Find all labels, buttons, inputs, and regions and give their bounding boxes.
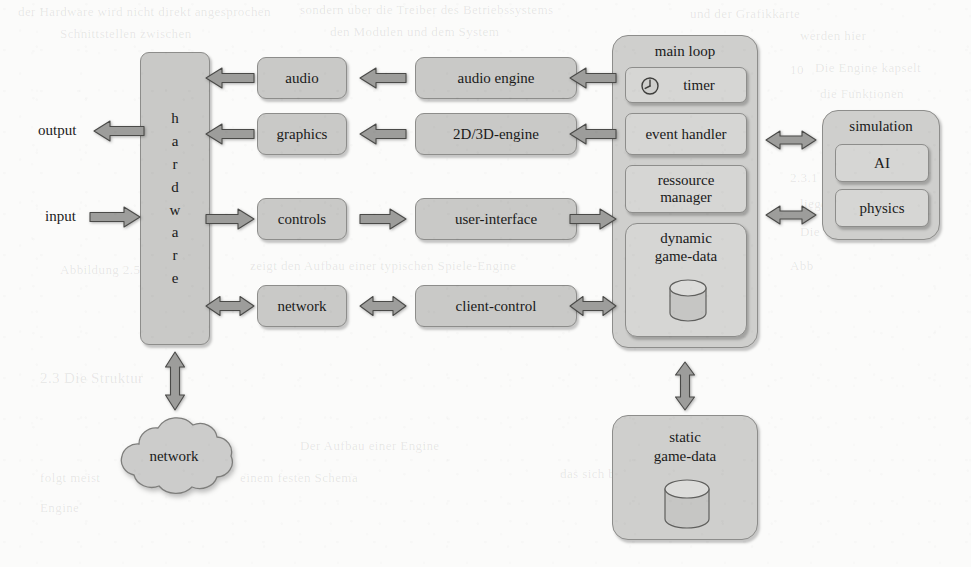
ghost-text-line: folgt meist — [40, 470, 100, 486]
hardware-node[interactable]: h a r d w a r e — [140, 52, 210, 345]
hardware-letter: e — [172, 267, 179, 290]
user-interface-node-label: user-interface — [455, 211, 537, 228]
hardware-letter: w — [170, 199, 181, 222]
client-control-node[interactable]: client-control — [415, 285, 577, 327]
event-handler-node[interactable]: event handler — [625, 113, 747, 155]
physics-node-label: physics — [860, 200, 905, 217]
ghost-text-line: werden hier — [800, 28, 866, 44]
controls-to-user-interface-arrow — [360, 208, 406, 230]
controls-node-label: controls — [278, 211, 326, 228]
hardware-letter: h — [171, 107, 179, 130]
ghost-text-line: der Hardware wird nicht direkt angesproc… — [18, 4, 271, 20]
graphics-node[interactable]: graphics — [257, 113, 347, 155]
audio-node[interactable]: audio — [257, 57, 347, 99]
controls-node[interactable]: controls — [257, 198, 347, 240]
ghost-text-line: den Modulen und dem System — [330, 24, 499, 40]
ghost-text-line: Der Aufbau einer Engine — [300, 438, 440, 454]
ghost-text-line: Schnittstellen zwischen — [60, 26, 192, 42]
audio-node-label: audio — [285, 70, 318, 87]
ghost-text-line: Die — [800, 224, 820, 240]
ressource-manager-line1: ressource — [658, 172, 715, 189]
hardware-to-network-cloud-arrow — [164, 352, 186, 410]
ghost-text-line: 10 — [790, 62, 804, 78]
hardware-letter: r — [173, 244, 178, 267]
ai-node[interactable]: AI — [835, 144, 929, 182]
dynamic-game-data-node[interactable]: dynamic game-data — [625, 223, 747, 337]
ghost-text-line: die Funktionen — [820, 86, 904, 102]
ghost-text-line: Engine — [40, 500, 79, 516]
ghost-text-line: Abbildung 2.5 — [60, 262, 140, 278]
network-driver-node[interactable]: network — [257, 285, 347, 327]
ghost-text-line: sondern uber die Treiber des Betriebssys… — [300, 2, 553, 18]
engine-2d3d-node[interactable]: 2D/3D-engine — [415, 113, 577, 155]
network-cloud[interactable]: network — [100, 410, 248, 506]
ressource-manager-node[interactable]: ressource manager — [625, 165, 747, 213]
user-interface-node[interactable]: user-interface — [415, 198, 577, 240]
ghost-text-line: 2.3 Die Struktur — [40, 370, 143, 387]
timer-node[interactable]: timer — [625, 67, 747, 103]
main-loop-container[interactable]: main loop timer event handler ressource … — [612, 35, 758, 348]
dynamic-game-data-line2: game-data — [626, 248, 746, 265]
hardware-letter: d — [171, 176, 179, 199]
graphics-node-label: graphics — [277, 126, 328, 143]
static-game-data-container[interactable]: static game-data — [612, 415, 758, 540]
clock-icon — [640, 76, 660, 100]
input-arrow — [90, 206, 140, 228]
network-to-client-control-arrow — [360, 295, 406, 317]
audio-engine-node-label: audio engine — [457, 70, 534, 87]
database-cylinder-icon — [662, 479, 712, 535]
diagram-canvas: der Hardware wird nicht direkt angesproc… — [0, 0, 971, 567]
ghost-text-line: Die Engine kapselt — [815, 60, 921, 76]
hardware-letter: a — [172, 130, 179, 153]
timer-node-label: timer — [683, 77, 715, 94]
static-game-data-line2: game-data — [613, 448, 757, 465]
audio-engine-node[interactable]: audio engine — [415, 57, 577, 99]
mainloop-to-engine-2d3d-arrow — [570, 123, 616, 145]
dynamic-game-data-line1: dynamic — [626, 230, 746, 247]
hardware-to-controls-arrow — [206, 208, 254, 230]
audio-to-hardware-arrow — [206, 67, 254, 89]
mainloop-to-audio-engine-arrow — [570, 67, 616, 89]
ghost-text-line: einem festen Schema — [240, 470, 358, 486]
simulation-container[interactable]: simulation AI physics — [822, 110, 940, 240]
mainloop-to-simulation-physics-arrow — [766, 205, 816, 225]
ghost-text-line: zeigt den Aufbau einer typischen Spiele-… — [250, 258, 516, 274]
audio-engine-to-audio-arrow — [360, 67, 406, 89]
user-interface-to-mainloop-arrow — [570, 208, 616, 230]
client-control-to-mainloop-arrow — [570, 295, 616, 317]
network-driver-node-label: network — [277, 298, 326, 315]
graphics-to-hardware-arrow — [206, 123, 254, 145]
hardware-letter: a — [172, 221, 179, 244]
ghost-text-line: Abb — [790, 258, 814, 274]
simulation-title: simulation — [823, 118, 939, 135]
hardware-letter: r — [173, 153, 178, 176]
ghost-text-line: 2.3.1 — [790, 170, 818, 186]
output-label: output — [38, 122, 76, 139]
static-game-data-line1: static — [613, 429, 757, 446]
event-handler-node-label: event handler — [645, 126, 726, 143]
ressource-manager-line2: manager — [660, 189, 712, 206]
hardware-to-network-arrow — [206, 295, 254, 317]
mainloop-to-static-data-arrow — [674, 362, 696, 410]
engine-2d3d-node-label: 2D/3D-engine — [453, 126, 539, 143]
mainloop-to-simulation-ai-arrow — [766, 130, 816, 150]
physics-node[interactable]: physics — [835, 189, 929, 227]
network-cloud-label: network — [100, 448, 248, 465]
engine-2d3d-to-graphics-arrow — [360, 123, 406, 145]
ai-node-label: AI — [874, 155, 890, 172]
main-loop-title: main loop — [613, 43, 757, 60]
input-label: input — [45, 208, 76, 225]
client-control-node-label: client-control — [456, 298, 537, 315]
output-arrow — [94, 120, 144, 142]
database-cylinder-icon — [667, 279, 709, 327]
ghost-text-line: und der Grafikkarte — [690, 6, 800, 22]
